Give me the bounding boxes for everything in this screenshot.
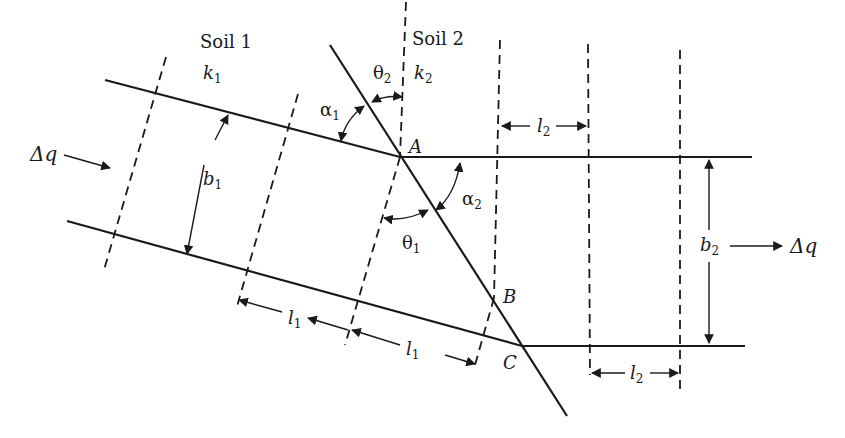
l2-label-top: l2 [537, 117, 550, 138]
k2-label: k2 [414, 64, 433, 85]
soil1-label: Soil 1 [200, 33, 252, 51]
soil2-label: Soil 2 [412, 30, 464, 48]
alpha1-label: α1 [320, 101, 340, 122]
alpha2-label: α2 [462, 190, 482, 211]
soil-interface-line [330, 45, 567, 416]
l1-label-right: l1 [406, 340, 419, 361]
flow-in-label: Δq [30, 144, 57, 164]
theta1-label: θ1 [402, 234, 420, 255]
l2-label-bottom: l2 [630, 364, 643, 385]
flow-out-label: Δq [790, 236, 817, 256]
b1-label: b1 [203, 170, 222, 191]
k1-label: k1 [203, 64, 222, 85]
point-a-label: A [409, 138, 422, 156]
equipotential-lines [104, 2, 680, 390]
point-c-label: C [503, 354, 517, 372]
theta2-label: θ2 [373, 64, 391, 85]
flow-refraction-diagram: Soil 1 k1 Soil 2 k2 Δq Δq b1 b2 l1 l1 l2… [0, 0, 845, 438]
upper-flow-line-soil1 [105, 80, 400, 157]
dimension-arrows [64, 97, 782, 373]
l1-label-left: l1 [288, 309, 301, 330]
b2-label: b2 [700, 236, 719, 257]
point-b-label: B [503, 288, 516, 306]
